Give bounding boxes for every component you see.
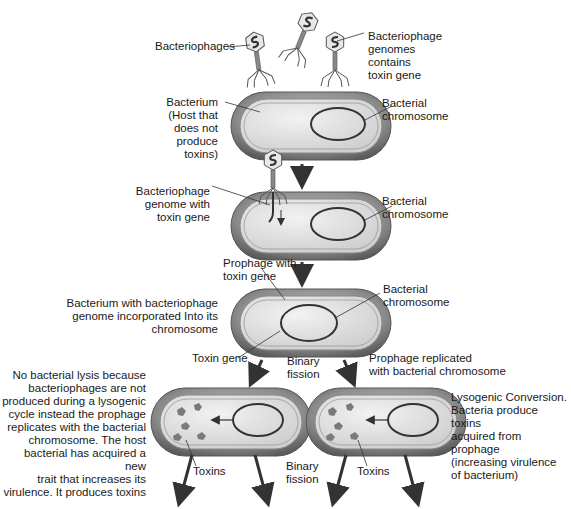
arrow-down-icon — [405, 455, 416, 496]
label-toxins-left: Toxins — [193, 465, 226, 478]
label-bacterial-chromosome-3: Bacterial chromosome — [383, 283, 449, 309]
bacterium-cell-daughter-right — [306, 388, 466, 456]
bacteriophage-icon — [240, 30, 275, 88]
label-bacterial-chromosome-1: Bacterial chromosome — [382, 97, 448, 123]
bacteriophage-icon — [278, 7, 325, 68]
bacteriophage-icon — [321, 32, 349, 87]
label-toxins-right: Toxins — [357, 465, 390, 478]
arrow-down-icon — [335, 455, 346, 496]
label-bacterium-host: Bacterium (Host that does not produce to… — [160, 96, 218, 161]
label-phage-genome-toxin: Bacteriophage genome with toxin gene — [128, 185, 210, 224]
label-bacterial-chromosome-2: Bacterial chromosome — [382, 195, 448, 221]
arrow-down-left-icon — [254, 360, 262, 377]
label-bacterium-incorporated: Bacterium with bacteriophage genome inco… — [60, 297, 218, 336]
arrow-down-right-icon — [344, 360, 351, 377]
label-toxin-gene: Toxin gene — [192, 352, 248, 365]
arrow-down-icon — [255, 455, 266, 496]
label-no-lysis-note: No bacterial lysis because bacteriophage… — [0, 369, 146, 499]
bacterium-cell-infected — [231, 192, 391, 260]
label-binary-fission-1: Binary fission — [287, 355, 320, 381]
bacterium-cell-daughter-left — [151, 388, 311, 456]
label-lysogenic-conversion: Lysogenic Conversion. Bacteria produce t… — [451, 391, 571, 482]
label-bacteriophages: Bacteriophages — [155, 40, 235, 53]
label-prophage-replicated: Prophage replicated with bacterial chrom… — [369, 352, 506, 378]
label-prophage-toxin: Prophage with toxin gene — [223, 257, 297, 283]
label-phage-genomes: Bacteriophage genomes contains toxin gen… — [368, 30, 442, 82]
bacterium-cell-host — [231, 92, 391, 160]
label-binary-fission-2: Binary fission — [286, 460, 319, 486]
arrow-down-icon — [181, 455, 192, 496]
